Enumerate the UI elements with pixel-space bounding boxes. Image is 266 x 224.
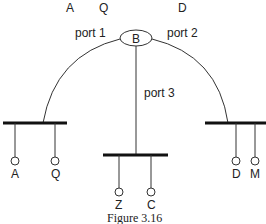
bridge-diagram: A Q D port 1 port 2 port 3 B A Q Z C D M…: [0, 0, 266, 224]
station-a-label: A: [11, 167, 19, 181]
station-q-label: Q: [51, 167, 60, 181]
top-label-q: Q: [99, 1, 108, 15]
left-arc-link: [43, 39, 120, 123]
station-c-label: C: [147, 198, 156, 212]
station-q-node: [51, 157, 59, 165]
port-2-label: port 2: [167, 26, 198, 40]
station-z-label: Z: [115, 198, 122, 212]
right-arc-link: [152, 39, 228, 123]
station-d-node: [232, 157, 240, 165]
port-3-label: port 3: [144, 86, 175, 100]
station-c-node: [147, 188, 155, 196]
top-label-d: D: [178, 1, 187, 15]
station-z-node: [115, 188, 123, 196]
station-d-label: D: [232, 167, 241, 181]
station-m-label: M: [250, 167, 260, 181]
station-m-node: [251, 157, 259, 165]
bridge-label: B: [132, 32, 140, 46]
port-1-label: port 1: [75, 26, 106, 40]
station-a-node: [11, 157, 19, 165]
top-label-a: A: [66, 1, 74, 15]
figure-caption: Figure 3.16: [107, 211, 162, 224]
